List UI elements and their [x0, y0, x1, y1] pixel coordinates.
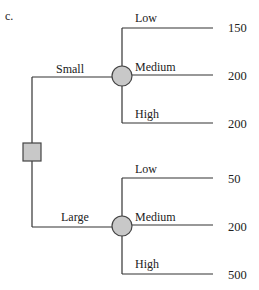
branch-label-small: Small	[56, 63, 84, 75]
payoff-small-low: 150	[228, 22, 247, 35]
outcome-label-large-medium: Medium	[135, 211, 176, 223]
decision-tree-lines	[0, 0, 259, 290]
payoff-small-high: 200	[228, 118, 247, 131]
payoff-large-low: 50	[228, 173, 241, 186]
outcome-label-small-high: High	[135, 108, 159, 120]
branch-label-large: Large	[61, 211, 89, 223]
outcome-label-small-medium: Medium	[135, 61, 176, 73]
payoff-large-medium: 200	[228, 221, 247, 234]
outcome-label-large-low: Low	[135, 163, 157, 175]
outcome-label-small-low: Low	[135, 12, 157, 24]
payoff-small-medium: 200	[228, 70, 247, 83]
figure-label: c.	[5, 10, 13, 22]
chance-node-large	[112, 216, 132, 236]
chance-node-small	[112, 66, 132, 86]
payoff-large-high: 500	[228, 269, 247, 282]
decision-node-square	[23, 143, 41, 161]
outcome-label-large-high: High	[135, 258, 159, 270]
